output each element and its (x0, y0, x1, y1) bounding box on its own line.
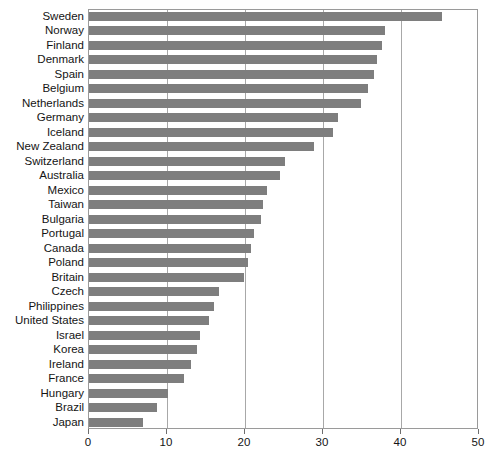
category-label-australia: Australia (0, 168, 84, 182)
bar-new-zealand (89, 142, 314, 151)
x-tick-mark-30 (322, 429, 323, 434)
bar-mexico (89, 186, 267, 195)
x-axis: 01020304050 (88, 429, 478, 453)
category-label-sweden: Sweden (0, 9, 84, 23)
bar-row (89, 82, 477, 96)
category-label-ireland: Ireland (0, 357, 84, 371)
category-label-spain: Spain (0, 67, 84, 81)
bar-row (89, 111, 477, 125)
x-tick-mark-50 (478, 429, 479, 434)
x-tick-mark-20 (244, 429, 245, 434)
x-tick-label-50: 50 (458, 436, 490, 448)
bar-poland (89, 258, 248, 267)
bar-taiwan (89, 200, 263, 209)
bar-row (89, 24, 477, 38)
bar-row (89, 387, 477, 401)
x-tick-mark-40 (400, 429, 401, 434)
bar-row (89, 314, 477, 328)
bar-ireland (89, 360, 191, 369)
category-label-canada: Canada (0, 241, 84, 255)
category-label-new-zealand: New Zealand (0, 139, 84, 153)
bar-row (89, 329, 477, 343)
bar-row (89, 140, 477, 154)
bar-australia (89, 171, 280, 180)
bar-row (89, 39, 477, 53)
x-tick-label-10: 10 (146, 436, 186, 448)
bar-row (89, 68, 477, 82)
category-label-france: France (0, 371, 84, 385)
bar-row (89, 126, 477, 140)
bar-row (89, 343, 477, 357)
bar-japan (89, 418, 143, 427)
bar-row (89, 227, 477, 241)
category-label-netherlands: Netherlands (0, 96, 84, 110)
bar-france (89, 374, 184, 383)
bar-britain (89, 273, 244, 282)
bar-row (89, 416, 477, 430)
bar-row (89, 213, 477, 227)
bar-sweden (89, 12, 442, 21)
x-tick-label-30: 30 (302, 436, 342, 448)
category-label-czech: Czech (0, 284, 84, 298)
bar-row (89, 155, 477, 169)
category-label-bulgaria: Bulgaria (0, 212, 84, 226)
bar-bulgaria (89, 215, 261, 224)
category-label-poland: Poland (0, 255, 84, 269)
x-tick-mark-0 (88, 429, 89, 434)
category-label-united-states: United States (0, 313, 84, 327)
bar-canada (89, 244, 251, 253)
bar-brazil (89, 403, 157, 412)
bar-germany (89, 113, 338, 122)
bar-row (89, 401, 477, 415)
category-axis-labels: SwedenNorwayFinlandDenmarkSpainBelgiumNe… (0, 9, 84, 429)
bar-norway (89, 26, 385, 35)
x-tick-mark-10 (166, 429, 167, 434)
bar-netherlands (89, 99, 361, 108)
category-label-korea: Korea (0, 342, 84, 356)
plot-area (88, 9, 478, 429)
category-label-hungary: Hungary (0, 386, 84, 400)
category-label-germany: Germany (0, 110, 84, 124)
category-label-taiwan: Taiwan (0, 197, 84, 211)
bar-finland (89, 41, 382, 50)
bar-chart: SwedenNorwayFinlandDenmarkSpainBelgiumNe… (0, 0, 490, 453)
bar-row (89, 53, 477, 67)
bar-row (89, 198, 477, 212)
category-label-philippines: Philippines (0, 299, 84, 313)
category-label-portugal: Portugal (0, 226, 84, 240)
bar-row (89, 372, 477, 386)
bar-row (89, 271, 477, 285)
bar-switzerland (89, 157, 285, 166)
category-label-belgium: Belgium (0, 81, 84, 95)
bar-row (89, 242, 477, 256)
category-label-norway: Norway (0, 23, 84, 37)
bar-spain (89, 70, 374, 79)
bar-philippines (89, 302, 214, 311)
category-label-brazil: Brazil (0, 400, 84, 414)
bar-row (89, 256, 477, 270)
category-label-israel: Israel (0, 328, 84, 342)
bar-czech (89, 287, 219, 296)
bar-row (89, 184, 477, 198)
category-label-mexico: Mexico (0, 183, 84, 197)
bar-iceland (89, 128, 333, 137)
bar-denmark (89, 55, 377, 64)
bar-portugal (89, 229, 254, 238)
bar-row (89, 97, 477, 111)
category-label-finland: Finland (0, 38, 84, 52)
bar-row (89, 300, 477, 314)
bar-row (89, 169, 477, 183)
bar-series (89, 10, 477, 428)
category-label-denmark: Denmark (0, 52, 84, 66)
bar-israel (89, 331, 200, 340)
bar-row (89, 285, 477, 299)
category-label-iceland: Iceland (0, 125, 84, 139)
x-tick-label-20: 20 (224, 436, 264, 448)
category-label-britain: Britain (0, 270, 84, 284)
bar-united-states (89, 316, 209, 325)
bar-hungary (89, 389, 168, 398)
bar-row (89, 358, 477, 372)
bar-row (89, 10, 477, 24)
bar-belgium (89, 84, 368, 93)
x-tick-label-40: 40 (380, 436, 420, 448)
